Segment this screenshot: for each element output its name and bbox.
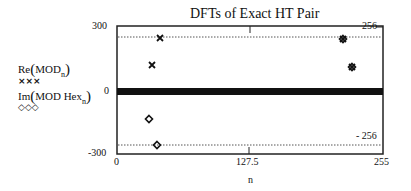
paren-close: )	[65, 61, 70, 77]
legend-arg: MOD Hex	[35, 90, 82, 102]
legend-fn: Re	[18, 63, 30, 75]
legend-series-re-marker: ×××	[18, 76, 41, 86]
ref-label-top: 256	[362, 20, 377, 31]
x-tick-left: 0	[114, 156, 119, 167]
paren-close: )	[86, 88, 91, 104]
y-tick-zero: 0	[104, 85, 109, 96]
diamond-marker	[146, 116, 153, 123]
x-marker	[157, 35, 163, 41]
ref-label-bottom: - 256	[356, 130, 377, 141]
y-tick-top: 300	[92, 20, 107, 31]
series-re-markers	[149, 35, 355, 70]
legend-series-re-label: Re(MODn)	[18, 60, 70, 77]
legend: Re(MODn)	[18, 60, 70, 77]
legend-arg: MOD	[35, 63, 61, 75]
zero-band-markers	[117, 88, 383, 95]
x-tick-mid: 127.5	[236, 156, 259, 167]
chart-title: DFTs of Exact HT Pair	[190, 6, 319, 22]
paren-open: (	[30, 61, 35, 77]
x-marker	[149, 62, 155, 68]
x-axis-label: n	[248, 174, 253, 185]
legend-series-im-marker: ◇◇◇	[18, 102, 39, 112]
legend-fn: Im	[18, 90, 30, 102]
y-tick-bottom: -300	[88, 147, 106, 158]
x-tick-right: 255	[374, 156, 389, 167]
